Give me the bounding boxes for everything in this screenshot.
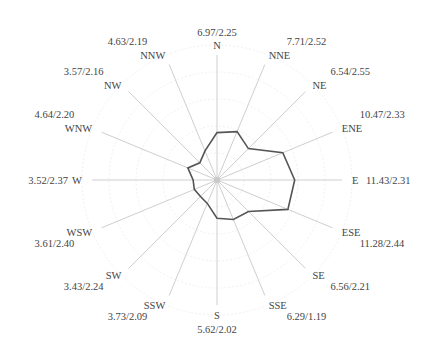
value-label-wsw: 3.61/2.40 [35,238,75,249]
spoke-nw [129,92,217,180]
direction-label-ene: ENE [342,123,362,134]
value-label-sw: 3.43/2.24 [64,281,104,292]
wind-rose-chart: N6.97/2.25NNE7.71/2.52NE6.54/2.55ENE10.4… [0,0,430,358]
spoke-sw [129,180,217,268]
value-label-nw: 3.57/2.16 [64,66,104,77]
value-label-se: 6.56/2.21 [330,281,370,292]
direction-label-w: W [72,175,82,186]
direction-label-s: S [214,310,220,321]
direction-label-sw: SW [106,270,122,281]
direction-label-nne: NNE [269,50,291,61]
value-label-ese: 11.28/2.44 [360,238,405,249]
value-label-nne: 7.71/2.52 [287,36,327,47]
direction-label-ese: ESE [342,227,361,238]
value-label-sse: 6.29/1.19 [287,311,327,322]
value-label-nnw: 4.63/2.19 [108,36,148,47]
value-label-ne: 6.54/2.55 [330,66,370,77]
value-label-wnw: 4.64/2.20 [35,109,75,120]
direction-label-ssw: SSW [144,300,166,311]
direction-label-n: N [213,40,221,51]
direction-label-wsw: WSW [67,227,93,238]
direction-label-ne: NE [312,80,326,91]
direction-label-sse: SSE [269,300,287,311]
value-label-n: 6.97/2.25 [197,27,237,38]
frequency-polygon [188,132,295,220]
direction-label-se: SE [312,270,324,281]
direction-label-nnw: NNW [140,50,165,61]
value-label-ssw: 3.73/2.09 [108,311,148,322]
value-label-e: 11.43/2.31 [366,175,411,186]
value-label-s: 5.62/2.02 [197,324,237,335]
direction-label-e: E [352,175,358,186]
direction-label-wnw: WNW [65,123,92,134]
center-dot [214,177,220,183]
direction-label-nw: NW [104,80,122,91]
value-label-ene: 10.47/2.33 [360,109,405,120]
spoke-ne [217,92,305,180]
value-label-w: 3.52/2.37 [28,175,68,186]
